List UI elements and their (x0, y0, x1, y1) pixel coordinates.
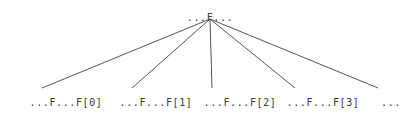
leaf-node-1-label: ...F...F[1] (120, 97, 193, 108)
tree-edge-2 (210, 19, 212, 88)
leaf-node-3-label: ...F...F[3] (287, 97, 360, 108)
tree-diagram: ...F... ...F...F[0] ...F...F[1] ...F...F… (0, 0, 414, 118)
root-node-label: ...F... (187, 12, 233, 23)
tree-edges (42, 19, 378, 88)
trailing-ellipsis-label: ... (381, 97, 401, 108)
tree-edge-0 (42, 19, 210, 88)
leaf-node-0-label: ...F...F[0] (30, 97, 103, 108)
tree-edge-1 (132, 19, 210, 88)
tree-edge-3 (210, 19, 295, 88)
leaf-node-2-label: ...F...F[2] (204, 97, 277, 108)
tree-edge-4 (210, 19, 378, 88)
